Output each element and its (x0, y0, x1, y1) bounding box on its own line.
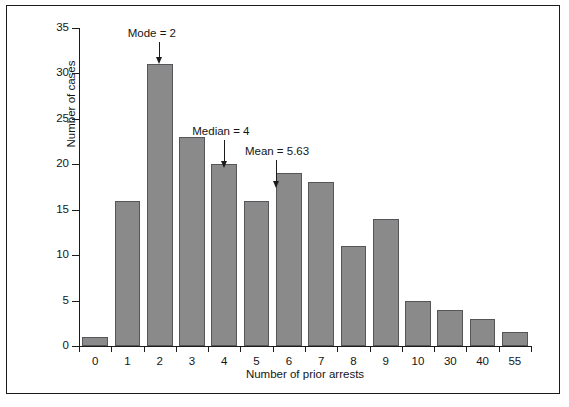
bar (211, 164, 237, 346)
y-axis-title: Number of cases (65, 34, 77, 174)
x-tick-label: 0 (92, 356, 98, 368)
x-axis-title: Number of prior arrests (79, 368, 531, 380)
y-tick-mark (72, 346, 79, 347)
annotation-label: Mean = 5.63 (245, 146, 309, 158)
y-tick-label: 20 (56, 159, 69, 171)
x-tick-label: 4 (221, 356, 227, 368)
x-tick-mark (79, 346, 80, 352)
x-tick-label: 10 (412, 356, 425, 368)
bar (502, 332, 528, 346)
x-tick-mark (305, 346, 306, 352)
x-tick-mark (208, 346, 209, 352)
y-tick-mark (72, 255, 79, 256)
bar (115, 201, 141, 346)
x-tick-mark (337, 346, 338, 352)
bar (405, 301, 431, 346)
x-tick-mark (111, 346, 112, 352)
y-axis-line (79, 28, 80, 346)
y-tick-label: 35 (56, 22, 69, 34)
bar (276, 173, 302, 346)
bar (373, 219, 399, 346)
x-tick-label: 40 (476, 356, 489, 368)
bar (147, 64, 173, 346)
y-tick-mark (72, 73, 79, 74)
x-tick-label: 3 (189, 356, 195, 368)
annotation-label: Median = 4 (192, 126, 249, 138)
y-tick-mark (72, 28, 79, 29)
x-tick-label: 55 (508, 356, 521, 368)
x-tick-label: 8 (350, 356, 356, 368)
x-tick-mark (466, 346, 467, 352)
x-tick-label: 7 (318, 356, 324, 368)
x-tick-label: 5 (253, 356, 259, 368)
bar (470, 319, 496, 346)
annotation-arrow-down-icon (154, 42, 165, 64)
y-tick-label: 10 (56, 249, 69, 261)
x-tick-mark (434, 346, 435, 352)
y-tick-mark (72, 301, 79, 302)
y-tick-label: 25 (56, 113, 69, 125)
y-tick-mark (72, 164, 79, 165)
x-tick-label: 9 (383, 356, 389, 368)
annotation-label: Mode = 2 (128, 28, 176, 40)
y-tick-mark (72, 210, 79, 211)
x-tick-label: 1 (124, 356, 130, 368)
x-tick-label: 2 (157, 356, 163, 368)
bar (82, 337, 108, 346)
x-tick-mark (144, 346, 145, 352)
x-tick-mark (176, 346, 177, 352)
x-tick-mark (531, 346, 532, 352)
annotation-arrow-down-icon (219, 140, 230, 168)
x-tick-mark (402, 346, 403, 352)
bar (437, 310, 463, 346)
x-tick-label: 30 (444, 356, 457, 368)
y-tick-mark (72, 119, 79, 120)
y-tick-label: 15 (56, 204, 69, 216)
plot-area: 05101520253035 012345678910304055 Mode =… (79, 28, 531, 346)
bar (308, 182, 334, 346)
x-tick-mark (370, 346, 371, 352)
x-tick-mark (273, 346, 274, 352)
figure-frame: Number of cases Number of prior arrests … (6, 5, 560, 394)
y-tick-label: 0 (63, 340, 69, 352)
x-tick-mark (240, 346, 241, 352)
y-tick-label: 30 (56, 68, 69, 80)
chart-page: Number of cases Number of prior arrests … (0, 0, 569, 407)
bar (179, 137, 205, 346)
bar (244, 201, 270, 346)
y-tick-label: 5 (63, 295, 69, 307)
bar (341, 246, 367, 346)
x-tick-mark (499, 346, 500, 352)
annotation-arrow-down-icon (271, 160, 282, 188)
x-tick-label: 6 (286, 356, 292, 368)
